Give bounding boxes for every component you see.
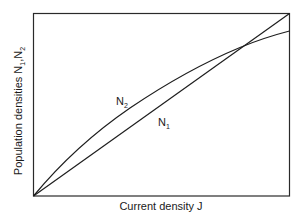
- series-n2-curve: [34, 31, 290, 196]
- series-n2-label: N2: [116, 95, 128, 109]
- y-axis-label: Population densities N1,N2: [12, 47, 26, 175]
- chart: N2 N1 Current density J Population densi…: [0, 0, 303, 218]
- series-n1-label: N1: [158, 116, 170, 130]
- x-axis-label: Current density J: [119, 200, 202, 212]
- series-n1-line: [34, 14, 290, 197]
